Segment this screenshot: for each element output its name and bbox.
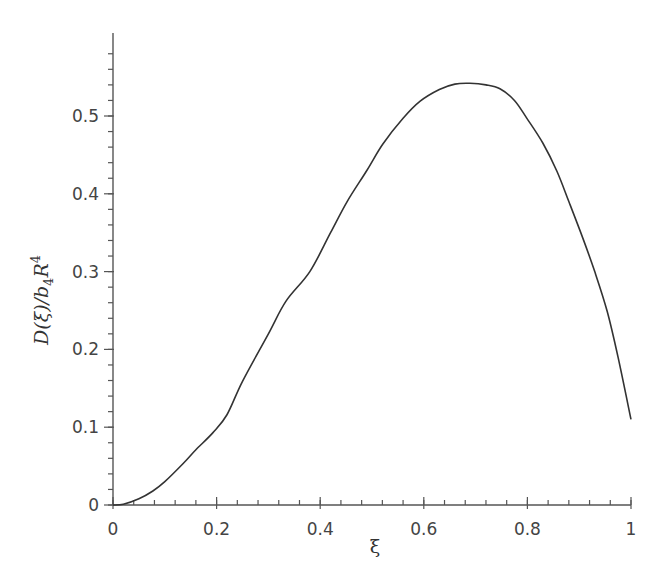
series-line bbox=[113, 83, 631, 505]
y-tick-label: 0.1 bbox=[72, 417, 99, 437]
y-tick-label: 0.2 bbox=[72, 339, 99, 359]
x-tick-label: 1 bbox=[626, 519, 637, 539]
y-label-subscript: 4 bbox=[41, 278, 56, 286]
x-axis: 00.20.40.60.81 bbox=[108, 497, 637, 539]
x-axis-label: ξ bbox=[370, 535, 380, 557]
y-axis-label: D(ξ)/b4R4 bbox=[28, 255, 56, 346]
svg-text:D(ξ)/b4R4: D(ξ)/b4R4 bbox=[28, 255, 56, 346]
x-tick-label: 0.8 bbox=[514, 519, 541, 539]
x-tick-label: 0.6 bbox=[410, 519, 437, 539]
y-axis: 00.10.20.30.40.5 bbox=[72, 33, 114, 515]
y-label-R: R bbox=[30, 263, 52, 278]
y-label-main: D(ξ)/b bbox=[30, 286, 52, 346]
chart: 00.20.40.60.81 00.10.20.30.40.5 ξ D(ξ)/b… bbox=[0, 0, 662, 585]
x-tick-label: 0.4 bbox=[307, 519, 334, 539]
y-label-superscript: 4 bbox=[28, 255, 43, 263]
y-tick-label: 0.3 bbox=[72, 262, 99, 282]
x-tick-label: 0.2 bbox=[203, 519, 230, 539]
x-tick-label: 0 bbox=[108, 519, 119, 539]
plot-area bbox=[113, 83, 631, 505]
y-tick-label: 0 bbox=[88, 495, 99, 515]
y-tick-label: 0.4 bbox=[72, 184, 99, 204]
y-tick-label: 0.5 bbox=[72, 106, 99, 126]
